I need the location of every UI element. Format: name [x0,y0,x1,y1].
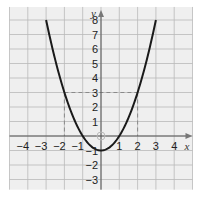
x-tick-label: −2 [53,140,66,152]
x-tick-label: 4 [171,140,177,152]
y-tick-label: −1 [85,145,98,157]
y-tick-label: 6 [92,43,98,55]
y-tick-label: 5 [92,58,98,70]
y-tick-label: 1 [92,116,98,128]
y-tick-label: −2 [85,159,98,171]
x-tick-label: 1 [116,140,122,152]
x-tick-label: −1 [71,140,84,152]
x-tick-label: 2 [135,140,141,152]
y-tick-label: 2 [92,101,98,113]
x-axis-label: x [184,140,190,152]
y-axis-label: y [90,7,96,19]
function-graph: −4−3−2−11234 87654321−1−2−3 x y [0,0,197,200]
y-tick-label: −3 [85,174,98,186]
x-tick-label: 3 [153,140,159,152]
y-tick-label: 3 [92,87,98,99]
x-tick-label: −4 [17,140,30,152]
x-tick-label: −3 [35,140,48,152]
y-tick-label: 4 [92,72,98,84]
y-tick-label: 7 [92,29,98,41]
